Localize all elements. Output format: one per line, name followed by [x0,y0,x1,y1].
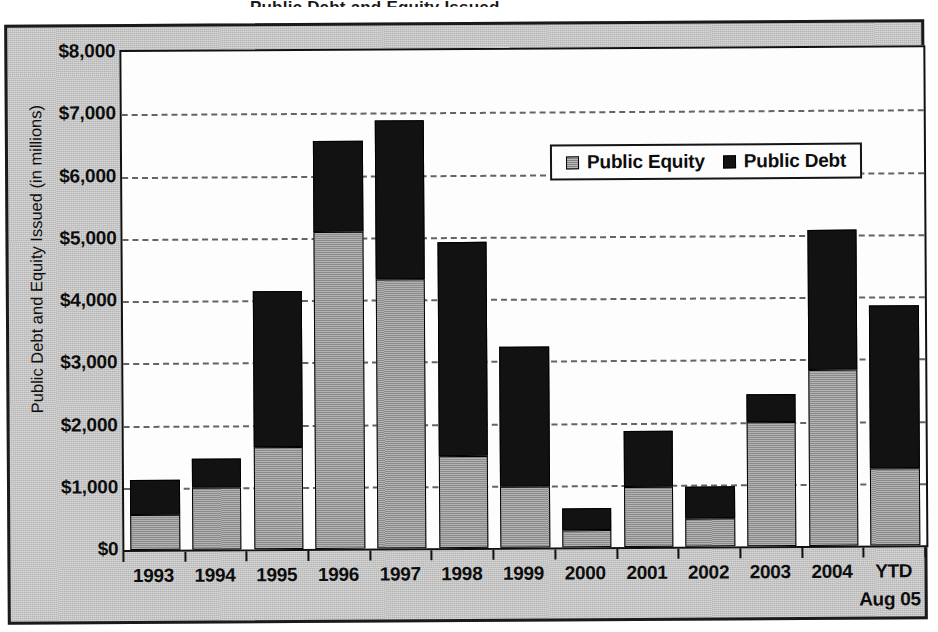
legend-entry: Public Equity [566,151,705,174]
bar-segment-public-debt [623,430,673,487]
chart-frame: Public Debt and Equity Issued (in millio… [4,19,928,625]
bar-segment-public-debt [807,229,857,370]
bar-1999 [499,346,550,547]
bar-segment-public-equity [624,487,674,547]
bar-segment-public-debt [437,242,488,456]
legend-label: Public Debt [744,150,846,173]
y-axis-tick-label: $0 [32,538,118,561]
bar-2004 [807,229,858,546]
bar-segment-public-debt [130,480,180,515]
chart-page: Public Debt and Equity Issued Public Deb… [0,0,938,632]
x-axis-tick-mark [369,551,371,561]
bar-1998 [437,242,488,549]
x-axis-tick-mark [122,552,124,562]
y-axis-tick-labels: $0$1,000$2,000$3,000$4,000$5,000$6,000$7… [21,50,118,553]
bar-1996 [313,141,365,549]
bar-segment-public-equity [686,518,736,546]
cropped-title-fragment: Public Debt and Equity Issued [250,0,670,7]
y-axis-tick-label: $3,000 [31,351,117,374]
bar-segment-public-equity [562,530,611,548]
x-axis-tick-mark [431,550,433,560]
bar-1994 [192,459,242,550]
y-axis-tick-label: $1,000 [32,476,118,499]
x-axis-tick-mark [924,547,926,557]
bar-segment-public-debt [375,121,425,280]
x-axis-tick-label-1995: 1995 [246,564,308,586]
x-axis-sublabel-ytd: Aug 05 [859,588,921,610]
bar-segment-public-equity [376,279,427,548]
bar-segment-public-equity [253,447,303,549]
bar-segment-public-debt [192,459,242,489]
bar-segment-public-equity [747,421,797,546]
x-axis-tick-mark [554,549,556,559]
legend-entry: Public Debt [723,150,846,173]
x-axis-tick-label-2001: 2001 [616,562,678,584]
bar-segment-public-debt [869,306,919,469]
x-axis-tick-mark [616,549,618,559]
bar-2001 [623,430,673,547]
x-axis-tick-label-2004: 2004 [801,561,863,583]
gridline [123,296,925,303]
bar-2002 [685,487,735,547]
bar-segment-public-equity [192,488,242,550]
bar-segment-public-debt [562,509,611,530]
bar-2000 [562,509,612,548]
x-axis-tick-mark [246,551,248,561]
x-axis-tick-label-1997: 1997 [369,563,431,585]
bar-segment-public-equity [130,514,180,550]
bar-1997 [375,121,427,549]
x-axis-tick-mark [307,551,309,561]
x-axis-tick-label-1998: 1998 [431,563,493,585]
bar-ytd [869,306,920,546]
x-axis-tick-label-ytd: YTD [863,560,925,582]
y-axis-tick-label: $4,000 [31,289,117,312]
bar-segment-public-equity [314,231,365,549]
x-axis-tick-mark [801,548,803,558]
legend-swatch-debt-icon [723,155,736,168]
bar-segment-public-debt [747,394,797,422]
x-axis-tick-labels: 1993199419951996199719981999200020012002… [122,560,934,595]
bar-segment-public-equity [870,469,920,546]
x-axis-tick-mark [739,548,741,558]
bar-segment-public-equity [808,370,858,546]
plot-inner [121,47,926,550]
y-axis-tick-label: $6,000 [30,165,116,188]
y-axis-tick-label: $7,000 [30,102,116,125]
x-axis-tick-mark [863,548,865,558]
gridline [122,234,924,241]
bar-segment-public-debt [685,487,735,519]
x-axis-tick-label-1999: 1999 [493,562,555,584]
chart-legend: Public EquityPublic Debt [550,143,862,181]
y-axis-tick-label: $8,000 [29,40,115,63]
bar-1993 [130,480,180,550]
x-axis-tick-label-2000: 2000 [554,562,616,584]
y-axis-tick-label: $2,000 [32,414,118,437]
x-axis-tick-label-2002: 2002 [678,561,740,583]
legend-label: Public Equity [587,151,705,174]
x-axis-tick-label-1993: 1993 [122,565,184,587]
bar-1995 [252,291,303,549]
x-axis-tick-label-1996: 1996 [308,564,370,586]
bar-segment-public-debt [499,346,549,486]
gridline [122,109,924,116]
bar-2003 [747,394,797,546]
bar-segment-public-debt [252,291,302,447]
x-axis-tick-label-2003: 2003 [739,561,801,583]
x-axis-tick-mark [184,552,186,562]
y-axis-tick-label: $5,000 [30,227,116,250]
x-axis-tick-mark [678,549,680,559]
bar-segment-public-debt [313,141,363,232]
x-axis-tick-mark [493,550,495,560]
legend-swatch-equity-icon [566,156,579,169]
bar-segment-public-equity [438,456,488,548]
bar-segment-public-equity [500,486,550,547]
x-axis-tick-label-1994: 1994 [184,564,246,586]
plot-area [119,45,928,552]
